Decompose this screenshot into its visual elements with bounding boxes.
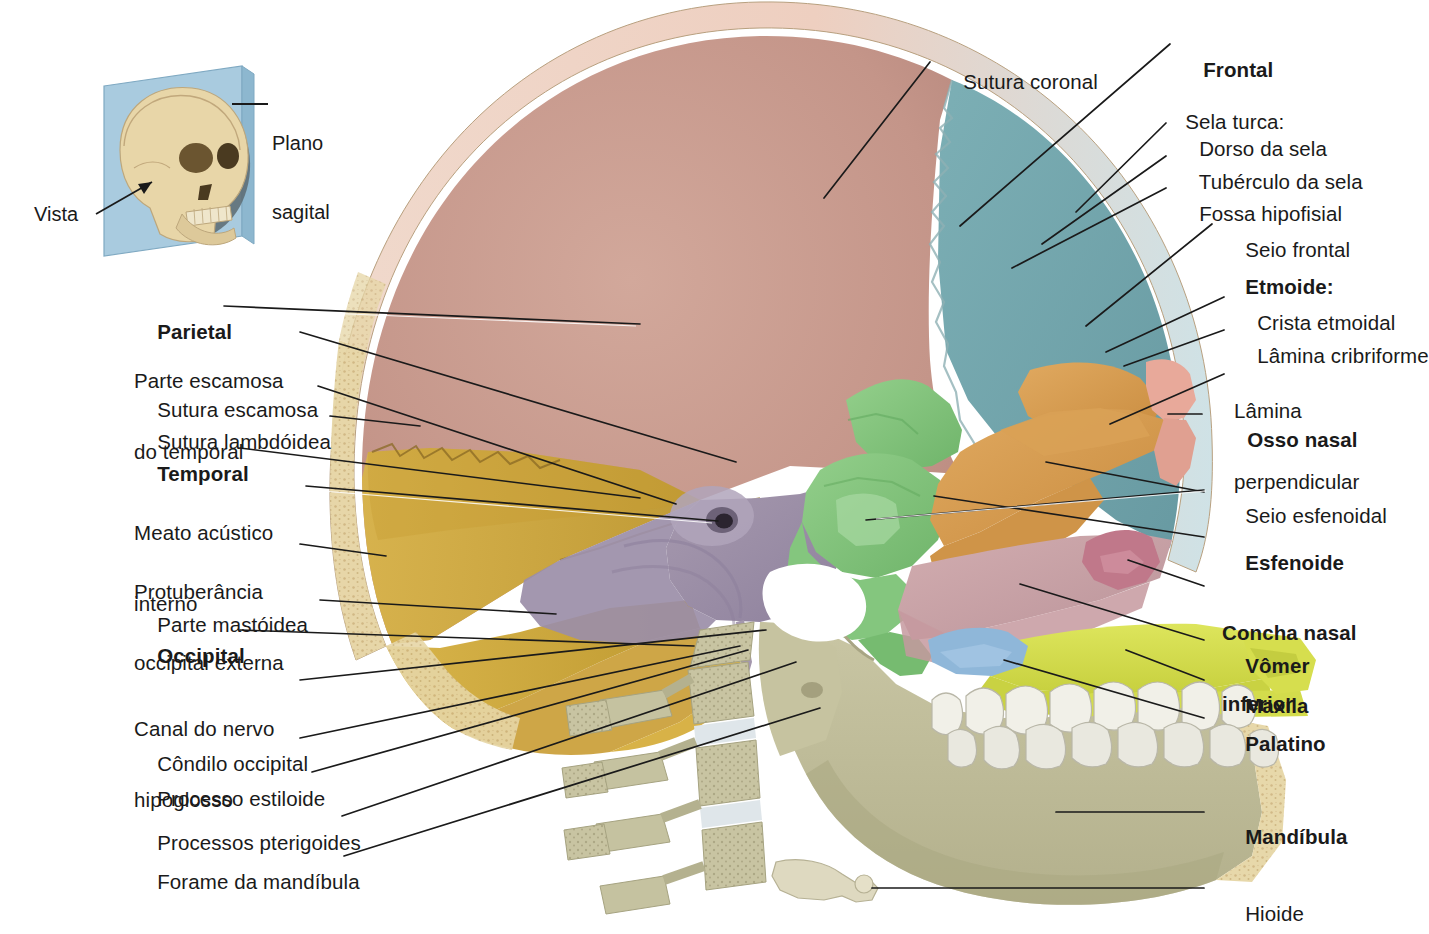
inset-plano-sagital-label: Plano sagital bbox=[272, 86, 330, 270]
orientation-inset-art bbox=[96, 66, 268, 256]
label-osso-nasal-text: Osso nasal bbox=[1247, 428, 1357, 451]
hyoid-bone bbox=[772, 860, 878, 902]
inset-plano-line1: Plano bbox=[272, 132, 330, 155]
label-hioide-text: Hioide bbox=[1245, 902, 1304, 925]
label-sutura-coronal: Sutura coronal bbox=[940, 46, 1098, 117]
inset-plano-line2: sagital bbox=[272, 201, 330, 224]
label-forame-mandibula-text: Forame da mandíbula bbox=[157, 870, 359, 893]
label-sutura-coronal-text: Sutura coronal bbox=[963, 70, 1098, 93]
label-mandibula-text: Mandíbula bbox=[1245, 825, 1347, 848]
label-seio-esfenoidal-text: Seio esfenoidal bbox=[1245, 504, 1387, 527]
inset-vista-label: Vista bbox=[34, 203, 78, 226]
label-palatino-text: Palatino bbox=[1245, 732, 1326, 755]
label-frontal-text: Frontal bbox=[1203, 58, 1273, 81]
label-hioide: Hioide bbox=[1222, 878, 1304, 934]
label-occipital-text: Occipital bbox=[157, 644, 245, 667]
label-forame-da-mandibula: Forame da mandíbula bbox=[134, 846, 360, 917]
label-osso-nasal: Osso nasal bbox=[1224, 404, 1358, 475]
label-palatino: Palatino bbox=[1222, 708, 1326, 779]
label-mandibula: Mandíbula bbox=[1222, 801, 1347, 872]
label-esfenoide-text: Esfenoide bbox=[1245, 551, 1344, 574]
